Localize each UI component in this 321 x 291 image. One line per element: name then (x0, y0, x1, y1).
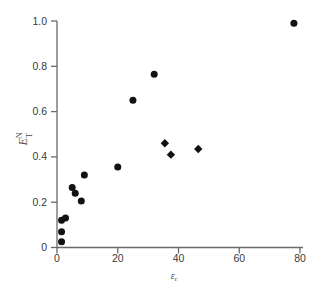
y-axis-label: ENT (15, 132, 34, 146)
x-tick-label: 40 (173, 252, 185, 264)
scatter-chart: 00.20.40.60.81.0020406080ENTεr (0, 0, 321, 291)
data-point-circle (78, 198, 85, 205)
data-point-circle (58, 238, 65, 245)
x-tick-label: 80 (294, 252, 306, 264)
y-tick-label: 1.0 (32, 15, 47, 27)
data-point-circle (72, 190, 79, 197)
y-tick-label: 0.8 (32, 60, 47, 72)
data-point-circle (58, 228, 65, 235)
y-tick-label: 0 (41, 241, 47, 253)
data-point-circle (290, 20, 297, 27)
y-tick-label: 0.6 (32, 105, 47, 117)
data-point-diamond (161, 139, 169, 147)
data-point-circle (62, 215, 69, 222)
x-axis-label: εr (171, 270, 178, 283)
data-point-circle (114, 164, 121, 171)
data-point-circle (151, 71, 158, 78)
data-point-circle (81, 172, 88, 179)
axes-lines (57, 21, 303, 248)
x-tick-label: 0 (54, 252, 60, 264)
y-tick-label: 0.4 (32, 150, 47, 162)
x-tick-label: 20 (112, 252, 124, 264)
data-point-circle (129, 97, 136, 104)
data-point-diamond (194, 145, 202, 153)
x-tick-label: 60 (233, 252, 245, 264)
data-point-diamond (167, 150, 175, 158)
plot-canvas: 00.20.40.60.81.0020406080ENTεr (0, 0, 321, 291)
y-tick-label: 0.2 (32, 196, 47, 208)
